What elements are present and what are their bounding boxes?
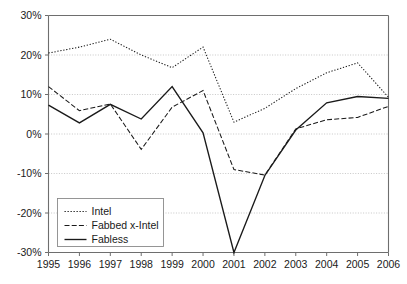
legend-label-intel: Intel xyxy=(92,205,112,217)
x-axis-tick-label: 1996 xyxy=(68,258,92,270)
x-axis-tick-label: 2005 xyxy=(346,258,370,270)
legend-label-fabless: Fabless xyxy=(92,233,129,245)
x-axis-tick-label: 2003 xyxy=(284,258,308,270)
chart-canvas: -30%-20%-10%0%10%20%30% 1995199619971998… xyxy=(0,0,407,284)
y-axis-tick-label: 20% xyxy=(20,49,41,61)
y-axis-tick-label: 0% xyxy=(26,128,41,140)
x-axis-tick-label: 2002 xyxy=(253,258,277,270)
y-axis-tick-label: 30% xyxy=(20,9,41,21)
x-axis-tick-labels: 1995199619971998199920002001200220032004… xyxy=(37,258,401,270)
chart-legend: IntelFabbed x-IntelFabless xyxy=(58,199,164,247)
x-axis-tick-label: 1997 xyxy=(99,258,123,270)
y-axis-tick-labels: -30%-20%-10%0%10%20%30% xyxy=(17,9,42,258)
gridlines xyxy=(49,55,389,213)
x-axis-tick-label: 2004 xyxy=(315,258,339,270)
x-axis-tick-label: 1998 xyxy=(130,258,154,270)
x-axis-tick-label: 1995 xyxy=(37,258,61,270)
series-line-intel xyxy=(49,39,389,122)
x-axis-tick-label: 2006 xyxy=(377,258,401,270)
y-axis-tick-label: 10% xyxy=(20,88,41,100)
x-axis-tick-label: 2000 xyxy=(191,258,215,270)
y-axis-tick-label: -20% xyxy=(17,207,42,219)
y-axis-tick-label: -10% xyxy=(17,167,42,179)
y-axis-tick-label: -30% xyxy=(17,246,42,258)
line-chart: -30%-20%-10%0%10%20%30% 1995199619971998… xyxy=(0,0,407,284)
x-axis-tick-label: 1999 xyxy=(160,258,184,270)
series-line-fabbed-x-intel xyxy=(49,87,389,175)
legend-label-fabbed-x-intel: Fabbed x-Intel xyxy=(92,219,159,231)
x-axis-tick-label: 2001 xyxy=(222,258,246,270)
